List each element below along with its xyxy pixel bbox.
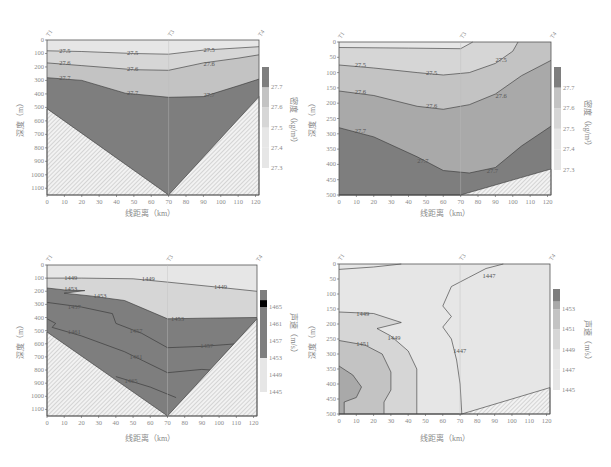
y-tick-label: 800 — [34, 144, 44, 151]
y-tick-label: 250 — [326, 115, 336, 122]
colorbar-segment — [262, 107, 269, 127]
colorbar-segment — [262, 128, 269, 148]
y-tick-label: 600 — [34, 340, 44, 347]
y-tick-label: 200 — [34, 63, 44, 70]
x-tick-label: 50 — [131, 198, 138, 205]
colorbar-label-panel-2: 密度（kg/m³） — [583, 100, 593, 151]
colorbar-tick-label: 1447 — [562, 366, 576, 373]
y-tick-label: 500 — [326, 410, 336, 417]
y-tick-label: 300 — [326, 350, 336, 357]
x-tick-label: 40 — [405, 417, 412, 424]
contour-label: 27.5 — [127, 49, 138, 56]
y-axis-label-panel-3: 深度（m） — [15, 321, 25, 359]
y-tick-label: 350 — [326, 145, 336, 152]
y-tick-label: 900 — [34, 379, 44, 386]
colorbar-tick-label: 27.4 — [563, 145, 575, 152]
contour-label: 1461 — [68, 328, 81, 335]
x-tick-label: 70 — [457, 198, 464, 205]
x-tick-label: 100 — [507, 417, 517, 424]
sound-speed-section-upper-500m: 1447144714491449145101020304050607080901… — [326, 253, 576, 424]
y-tick-label: 300 — [34, 300, 44, 307]
density-section-full-depth: 27.527.527.527.627.627.627.727.727.70102… — [31, 29, 283, 205]
x-tick-label: 0 — [337, 417, 340, 424]
x-tick-label: 80 — [474, 417, 481, 424]
x-axis-label-panel-3: 线距离（km） — [125, 433, 175, 443]
contour-label: 1457 — [130, 327, 144, 334]
contour-label: 1449 — [356, 310, 369, 317]
station-label: T1 — [337, 253, 346, 262]
colorbar-segment — [553, 329, 560, 349]
colorbar-segment — [260, 375, 267, 392]
colorbar-tick-label: 27.7 — [563, 84, 575, 91]
x-tick-label: 60 — [148, 198, 155, 205]
x-tick-label: 20 — [371, 198, 378, 205]
y-tick-label: 500 — [34, 103, 44, 110]
colorbar-tick-label: 27.5 — [271, 124, 282, 131]
x-tick-label: 80 — [183, 198, 190, 205]
station-label: T4 — [548, 253, 557, 262]
contour-label: 27.5 — [203, 46, 214, 53]
y-tick-label: 0 — [333, 260, 336, 267]
y-tick-label: 450 — [326, 176, 336, 183]
colorbar-segment — [262, 87, 269, 107]
contour-label: 27.7 — [355, 127, 367, 134]
colorbar-segment — [260, 324, 267, 341]
colorbar-segment — [260, 341, 267, 358]
x-tick-label: 120 — [542, 417, 552, 424]
colorbar-tick-label: 1453 — [562, 305, 575, 312]
x-tick-label: 90 — [199, 419, 206, 426]
y-tick-label: 200 — [326, 99, 336, 106]
density-section-upper-500m: 27.527.527.527.627.627.627.727.727.70102… — [326, 31, 575, 205]
station-label: T3 — [459, 31, 468, 40]
x-tick-label: 40 — [113, 198, 120, 205]
colorbar-label-panel-3: 声速（m/s） — [289, 313, 299, 357]
x-tick-label: 60 — [147, 419, 154, 426]
x-tick-label: 70 — [164, 419, 171, 426]
y-tick-label: 50 — [330, 53, 337, 60]
contour-label: 1453 — [171, 315, 184, 322]
colorbar-segment — [262, 148, 269, 168]
x-tick-label: 110 — [524, 417, 534, 424]
x-tick-label: 0 — [45, 419, 48, 426]
contour-label: 27.5 — [59, 47, 70, 54]
x-tick-label: 110 — [232, 419, 242, 426]
contour-label: 1453 — [93, 292, 106, 299]
colorbar-segment — [554, 129, 561, 150]
x-tick-label: 70 — [457, 417, 464, 424]
contour-label: 27.7 — [59, 74, 71, 81]
y-tick-label: 150 — [326, 84, 336, 91]
colorbar-tick-label: 27.6 — [271, 103, 283, 110]
contour-label: 27.7 — [487, 167, 499, 174]
y-tick-label: 500 — [34, 327, 44, 334]
figure-canvas: 27.527.527.527.627.627.627.727.727.70102… — [0, 0, 611, 467]
colorbar-segment — [260, 358, 267, 375]
station-label: T4 — [549, 31, 558, 40]
y-tick-label: 1000 — [31, 171, 44, 178]
x-tick-label: 30 — [388, 198, 395, 205]
colorbar-label-panel-1: 密度（kg/m³） — [289, 97, 299, 148]
y-tick-label: 0 — [41, 261, 44, 268]
y-tick-label: 1100 — [31, 405, 44, 412]
x-tick-label: 10 — [353, 198, 360, 205]
contour-label: 27.7 — [417, 157, 429, 164]
colorbar-segment — [553, 370, 560, 390]
x-tick-label: 70 — [165, 198, 172, 205]
y-tick-label: 900 — [34, 157, 44, 164]
x-tick-label: 110 — [525, 198, 535, 205]
y-tick-label: 100 — [34, 49, 44, 56]
contour-label: 27.5 — [426, 69, 437, 76]
colorbar-tick-label: 1453 — [269, 354, 282, 361]
y-tick-label: 0 — [333, 38, 336, 45]
x-tick-label: 90 — [491, 417, 498, 424]
colorbar-segment — [554, 149, 561, 170]
station-label: T3 — [458, 253, 467, 262]
contour-label: 1457 — [200, 342, 214, 349]
contour-label: 27.6 — [59, 59, 71, 66]
x-tick-label: 60 — [440, 417, 447, 424]
x-axis-label-panel-2: 线距离（km） — [420, 208, 470, 218]
x-tick-label: 50 — [130, 419, 137, 426]
colorbar-tick-label: 1445 — [269, 388, 282, 395]
x-axis-label-panel-1: 线距离（km） — [125, 208, 175, 218]
colorbar-segment — [553, 350, 560, 370]
contour-label: 1449 — [387, 334, 400, 341]
